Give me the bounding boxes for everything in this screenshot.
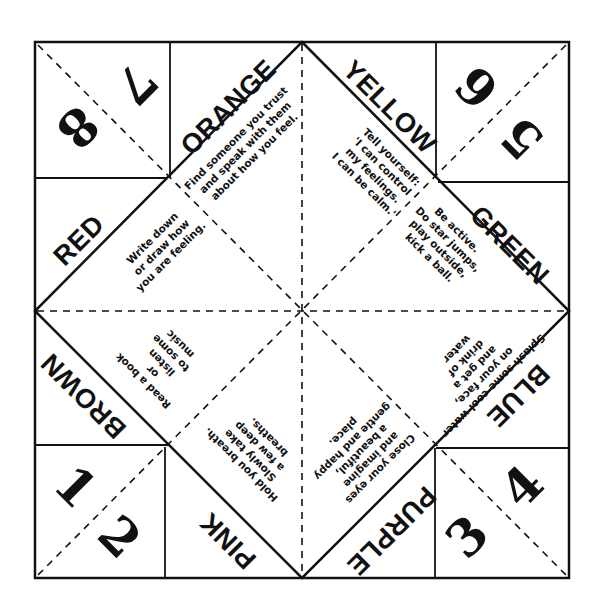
fortune-teller-template: 8 7 6 5 1 2 3 4 ORANGE YELLOW GREEN RED … [0, 0, 601, 609]
